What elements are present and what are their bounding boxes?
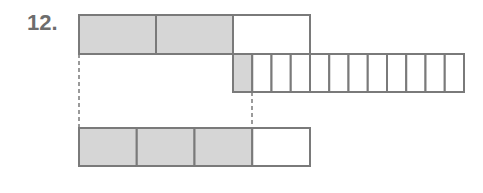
shaded-segment [137, 128, 195, 166]
empty-segment [291, 54, 310, 92]
empty-segment [349, 54, 368, 92]
empty-segment [406, 54, 425, 92]
empty-segment [445, 54, 464, 92]
empty-segment [368, 54, 387, 92]
fraction-bar-diagram [0, 0, 483, 193]
shaded-segment [79, 128, 137, 166]
empty-segment [426, 54, 445, 92]
bottom-bar [79, 128, 310, 166]
empty-segment [233, 15, 310, 54]
shaded-segment [195, 128, 253, 166]
top-bar [79, 15, 310, 54]
empty-segment [252, 128, 310, 166]
empty-segment [310, 54, 329, 92]
shaded-segment [233, 54, 252, 92]
shaded-segment [156, 15, 233, 54]
empty-segment [387, 54, 406, 92]
empty-segment [329, 54, 348, 92]
middle-bar [233, 54, 464, 92]
shaded-segment [79, 15, 156, 54]
empty-segment [252, 54, 271, 92]
empty-segment [272, 54, 291, 92]
